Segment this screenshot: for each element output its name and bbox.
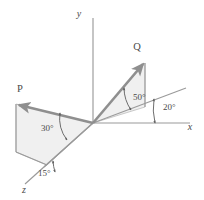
plane-shading-group [16,63,145,165]
x-axis-label: x [187,121,193,132]
angle-label-30: 30° [41,123,54,133]
vector-diagram-figure: y x z P Q 50° 20° 30° 15° [0,0,204,200]
y-axis-label: y [76,8,82,19]
angle-label-15: 15° [38,168,51,178]
arc-15-degrees [53,161,55,172]
arc-20-degrees [153,99,155,123]
vector-q-label: Q [133,41,141,52]
vector-p-label: P [17,83,23,94]
angle-label-20: 20° [163,102,176,112]
angle-label-50: 50° [133,92,146,102]
vector-diagram-canvas: y x z P Q 50° 20° 30° 15° [0,0,204,200]
z-axis-label: z [21,184,26,195]
